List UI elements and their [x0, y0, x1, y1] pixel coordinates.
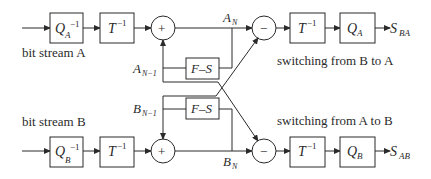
inv-t-b2-sup: −1: [307, 141, 317, 151]
adder-a-symbol: +: [158, 21, 165, 36]
quant-a-base: Q: [347, 21, 357, 36]
output-s-ba: S: [390, 21, 397, 36]
inverse-transform-a2-block: T −1: [290, 13, 325, 43]
inv-t-a2-base: T: [298, 21, 307, 36]
b-n-1-sub: N−1: [141, 109, 157, 118]
fs-b-block: F–S: [186, 98, 219, 119]
inv-t-a-base: T: [108, 21, 117, 36]
bit-stream-a-label: bit stream A: [22, 45, 86, 60]
inv-t-b-sup: −1: [117, 141, 127, 151]
subtract-a-symbol: −: [260, 21, 267, 36]
dequant-a-sup: −1: [70, 19, 80, 29]
dequant-b-sup: −1: [70, 142, 80, 152]
adder-b-symbol: +: [158, 144, 165, 159]
output-s-ba-sub: BA: [399, 28, 410, 38]
subtract-b-symbol: −: [260, 144, 267, 159]
switching-a-to-b-caption: switching from A to B: [277, 113, 393, 128]
subtractor-b: −: [252, 139, 276, 163]
a-n-label: A: [222, 10, 231, 25]
inv-t-b2-base: T: [298, 144, 307, 159]
fs-b-label: F–S: [190, 101, 212, 116]
switching-b-to-a-caption: switching from B to A: [277, 53, 394, 68]
inverse-transform-b2-block: T −1: [290, 137, 325, 167]
adder-b: +: [151, 139, 175, 163]
inv-t-a2-sup: −1: [307, 18, 317, 28]
quant-a-sub: A: [356, 28, 363, 38]
b-n-label: B: [223, 154, 231, 169]
svg-text:Q: Q: [55, 21, 65, 36]
subtractor-a: −: [252, 16, 276, 40]
dequant-a-base: Q: [55, 21, 65, 36]
quantizer-b-block: Q B: [340, 137, 375, 167]
quant-b-base: Q: [347, 144, 357, 159]
inv-t-a-sup: −1: [117, 18, 127, 28]
dequant-b-sub: B: [65, 155, 71, 165]
switching-block-diagram: Q A −1 T −1 + A N F–S A N−1: [0, 0, 431, 179]
fs-a-label: F–S: [190, 61, 212, 76]
output-s-ab-sub: AB: [398, 151, 410, 161]
adder-a: +: [151, 16, 175, 40]
fs-a-block: F–S: [186, 58, 219, 79]
dequantizer-b-block: Q B −1: [50, 137, 83, 167]
dequantizer-a-block: Q A −1: [50, 13, 83, 43]
inverse-transform-b-block: T −1: [100, 137, 134, 167]
a-n-sub: N: [231, 18, 238, 27]
b-n-sub: N: [231, 162, 238, 171]
a-n-1-sub: N−1: [141, 69, 157, 78]
dequant-b-base: Q: [55, 144, 65, 159]
dequant-a-sub: A: [64, 30, 71, 40]
output-s-ab: S: [390, 144, 397, 159]
inverse-transform-a-block: T −1: [100, 13, 134, 43]
bit-stream-b-label: bit stream B: [22, 114, 86, 129]
inv-t-b-base: T: [108, 144, 117, 159]
quantizer-a-block: Q A: [340, 13, 375, 43]
quant-b-sub: B: [357, 151, 363, 161]
b-n-1-label: B: [133, 101, 141, 116]
a-n-1-label: A: [132, 61, 141, 76]
